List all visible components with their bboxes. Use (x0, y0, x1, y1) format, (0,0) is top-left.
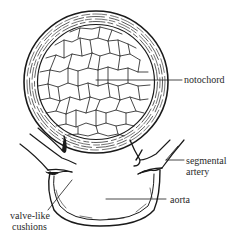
label-valve-cushions-line2: cushions (12, 221, 47, 232)
label-aorta: aorta (170, 194, 190, 205)
leader-line-segmental-artery (166, 146, 184, 160)
label-notochord: notochord (184, 74, 225, 85)
label-segmental-artery-line1: segmental (186, 155, 227, 166)
right-segmental-artery (130, 140, 184, 174)
label-valve-cushions-line1: valve-like (10, 210, 50, 221)
aorta-wall (49, 170, 160, 226)
notochord-sheath (24, 11, 168, 153)
notochord-cells (38, 27, 150, 136)
label-segmental-artery-line2: artery (186, 166, 209, 177)
